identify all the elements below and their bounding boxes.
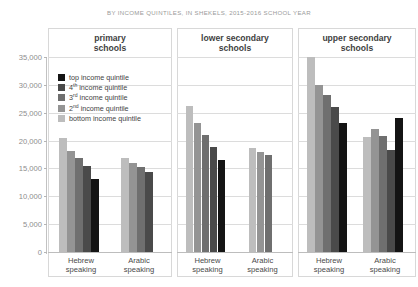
y-tick-mark [44,224,47,225]
bar [323,95,330,252]
bar [257,152,264,252]
legend-ordinal-suffix: nd [73,102,79,108]
y-tick-label: 25,000 [0,108,42,117]
bar [75,158,82,252]
bar [121,158,128,252]
bar [210,147,217,252]
y-tick-label: 30,000 [0,80,42,89]
legend-label: top income quintile [69,73,129,82]
group-label: Arabicspeaking [345,256,418,274]
legend-item: top income quintile [58,72,141,82]
y-tick-label: 15,000 [0,164,42,173]
bar [83,166,90,252]
legend-item: 2nd income quintile [58,103,141,113]
gridline [177,113,293,114]
bar [395,118,402,252]
legend-ordinal-suffix: th [73,82,77,88]
bar [202,135,209,252]
bar [363,137,370,252]
legend-label: 4th income quintile [69,83,127,92]
legend-label: 2nd income quintile [69,104,129,113]
chart-supertitle: BY INCOME QUINTILES, IN SHEKELS, 2015-20… [0,9,418,16]
y-tick-label: 5,000 [0,220,42,229]
bar [265,155,272,253]
bar [186,106,193,252]
y-tick-mark [44,196,47,197]
legend-swatch [58,105,65,112]
y-tick-mark [44,113,47,114]
group-label-line1: Arabic [345,256,418,265]
legend-item: 3rd income quintile [58,93,141,103]
y-tick-mark [44,85,47,86]
bar [387,150,394,252]
bar [129,163,136,252]
y-tick-label: 20,000 [0,136,42,145]
bar [371,129,378,252]
gridline [177,252,293,253]
y-tick-mark [44,252,47,253]
legend-item: 4th income quintile [58,82,141,92]
bar [67,151,74,252]
bar [91,179,98,252]
bar [145,172,152,252]
y-tick-label: 0 [0,248,42,257]
bar [218,160,225,252]
bar [249,148,256,252]
gridline [48,252,172,253]
y-tick-mark [44,168,47,169]
chart-legend: top income quintile4th income quintile3r… [58,72,141,124]
gridline [298,252,416,253]
legend-swatch [58,84,65,91]
y-tick-mark [44,141,47,142]
group-label-line2: speaking [345,265,418,274]
bar [339,123,346,252]
gridline [177,57,293,58]
y-tick-mark [44,57,47,58]
y-tick-label: 35,000 [0,53,42,62]
bar [194,123,201,252]
legend-swatch [58,115,65,122]
bar [315,85,322,252]
bar [331,107,338,252]
legend-item: bottom income quintile [58,114,141,124]
bar [137,167,144,252]
legend-label: bottom income quintile [69,114,141,123]
bar [59,138,66,252]
bar [379,136,386,252]
legend-ordinal-suffix: rd [73,92,78,98]
gridline [177,85,293,86]
legend-swatch [58,94,65,101]
gridline [298,57,416,58]
gridline [48,57,172,58]
legend-swatch [58,74,65,81]
legend-label: 3rd income quintile [69,93,127,102]
chart-figure: BY INCOME QUINTILES, IN SHEKELS, 2015-20… [0,0,418,287]
y-tick-label: 10,000 [0,192,42,201]
bar [307,57,314,252]
